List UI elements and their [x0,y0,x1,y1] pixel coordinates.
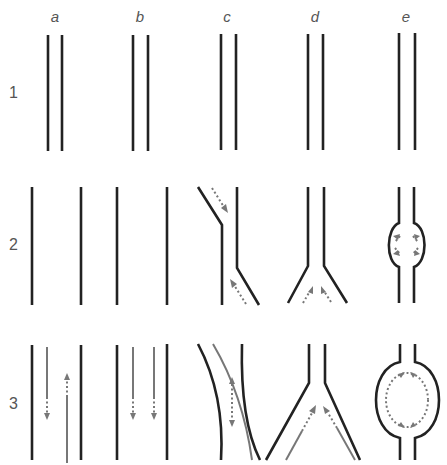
row-1-diagrams [48,33,415,151]
cell-1e [399,33,415,150]
cell-1d [308,34,323,150]
cell-2a [32,187,81,305]
cell-3a [32,345,81,463]
arrow-down-icon [130,413,136,420]
arrow-up-icon [324,291,331,302]
arrow-up-icon [303,291,310,303]
arrow-up-icon [323,406,330,414]
arrow-down-icon [151,413,157,420]
cell-3c [198,344,260,460]
cell-2e [389,187,425,303]
arrow-up-icon [64,373,70,380]
arrow-down-icon [229,420,235,427]
cell-1c [221,34,236,150]
arrow-icon [410,372,416,378]
arrow-icon [398,422,405,428]
cell-2d [288,187,347,303]
arrow-icon [410,422,416,428]
arrow-up-icon [234,285,246,304]
arrow-up-icon [309,405,316,414]
row-2-diagrams [32,187,425,305]
diagram-canvas [0,0,447,465]
cell-1b [133,35,148,151]
arrow-down-icon [212,188,224,207]
cell-3b [117,344,167,460]
cell-3d [266,344,360,460]
cell-3e [376,344,439,460]
arrow-icon [398,372,405,378]
cell-2c [198,187,259,305]
row-3-diagrams [32,344,439,463]
cell-1a [48,35,62,151]
arrow-down-icon [44,413,50,420]
cell-2b [117,187,167,305]
